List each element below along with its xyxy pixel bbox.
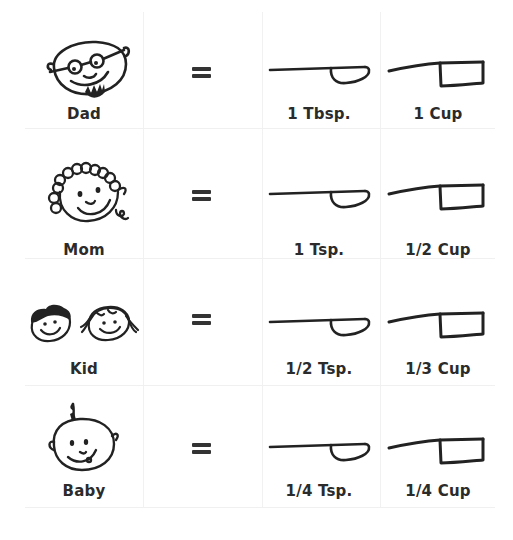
grid-divider-vertical — [262, 12, 263, 508]
cup-measure-label: 1/2 Cup — [383, 241, 493, 259]
equals-sign — [192, 314, 212, 326]
equals-sign — [192, 67, 212, 79]
person-label: Mom — [24, 241, 144, 259]
person-label: Kid — [24, 360, 144, 378]
mom-face-icon — [44, 162, 134, 230]
cup-icon — [387, 58, 487, 92]
grid-divider-horizontal — [25, 507, 495, 508]
equals-sign — [192, 190, 212, 202]
spoon-measure-label: 1/2 Tsp. — [264, 360, 374, 378]
cup-icon — [387, 309, 487, 343]
quarter-teaspoon-icon — [268, 438, 374, 468]
baby-face-icon — [44, 400, 124, 478]
dad-face-icon — [44, 38, 134, 104]
cup-measure-label: 1/4 Cup — [383, 482, 493, 500]
teaspoon-icon — [268, 185, 374, 215]
spoon-measure-label: 1/4 Tsp. — [264, 482, 374, 500]
cup-icon — [387, 435, 487, 469]
person-label: Baby — [24, 482, 144, 500]
tablespoon-icon — [268, 60, 374, 90]
spoon-measure-label: 1 Tbsp. — [264, 105, 374, 123]
grid-divider-vertical — [143, 12, 144, 508]
grid-divider-horizontal — [25, 128, 495, 129]
person-label: Dad — [24, 105, 144, 123]
cup-measure-label: 1/3 Cup — [383, 360, 493, 378]
equals-sign — [192, 443, 212, 455]
grid-divider-vertical — [380, 12, 381, 508]
cup-icon — [387, 181, 487, 215]
cup-measure-label: 1 Cup — [383, 105, 493, 123]
half-teaspoon-icon — [268, 313, 374, 343]
spoon-measure-label: 1 Tsp. — [264, 241, 374, 259]
grid-divider-horizontal — [25, 385, 495, 386]
kid-faces-icon — [26, 302, 146, 344]
